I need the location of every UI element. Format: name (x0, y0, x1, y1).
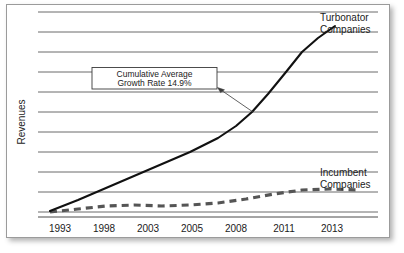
x-tick-label: 2005 (181, 223, 204, 234)
y-axis-title: Revenues (16, 99, 27, 144)
series-line-turbonator (50, 26, 335, 211)
x-tick-labels: 1993 1998 2003 2005 2008 2011 2013 (49, 223, 344, 234)
chart-figure: Revenues Cumulative Average Growth Rate … (0, 0, 404, 253)
x-tick-label: 1993 (49, 223, 72, 234)
callout-line-1: Cumulative Average (117, 69, 193, 79)
cagr-callout: Cumulative Average Growth Rate 14.9% (92, 68, 253, 113)
x-tick-label: 2011 (273, 223, 295, 234)
callout-line-2: Growth Rate 14.9% (117, 78, 192, 88)
line-chart: Revenues Cumulative Average Growth Rate … (0, 0, 404, 253)
callout-leader-line (221, 90, 253, 112)
series-label-incumbent-line-1: Incumbent (320, 167, 367, 178)
x-tick-label: 1998 (93, 223, 116, 234)
x-tick-label: 2003 (137, 223, 160, 234)
series-label-incumbent-line-2: Companies (320, 179, 371, 190)
series-label-turbonator-line-1: Turbonator (320, 12, 369, 23)
x-tick-label: 2013 (321, 223, 344, 234)
x-tick-label: 2008 (225, 223, 248, 234)
series-label-turbonator: Turbonator Companies (320, 12, 371, 35)
series-label-turbonator-line-2: Companies (320, 24, 371, 35)
series-label-incumbent: Incumbent Companies (320, 167, 371, 190)
